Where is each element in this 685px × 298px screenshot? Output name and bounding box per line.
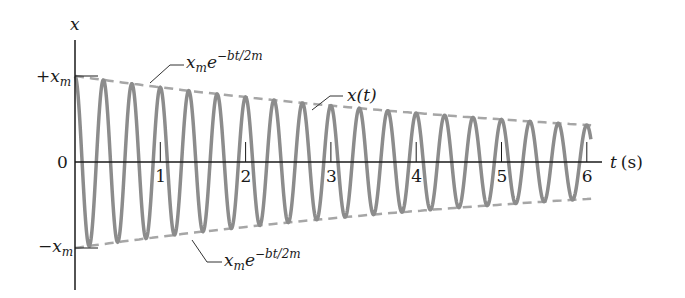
x-ticks: 123456 [155, 142, 592, 186]
lower-envelope-leader [192, 240, 222, 262]
damped-oscillation-chart: 123456 x t(s) +xm 0 −xm xme−bt/2m x(t) x… [0, 0, 685, 298]
lower-envelope-label: xme−bt/2m [224, 247, 301, 273]
x-tick-label: 5 [497, 166, 508, 186]
x-of-t-curve [75, 76, 591, 246]
minus-xm-label: −xm [38, 236, 73, 259]
upper-envelope-leader [150, 65, 184, 83]
x-axis-label: t(s) [610, 152, 643, 172]
zero-label: 0 [57, 152, 68, 172]
plus-xm-label: +xm [36, 66, 71, 89]
x-tick-label: 4 [411, 166, 422, 186]
y-axis-label: x [70, 14, 80, 34]
upper-envelope-label: xme−bt/2m [186, 49, 263, 75]
curve-leader [312, 96, 343, 110]
oscillation-curve [75, 76, 591, 246]
x-tick-label: 6 [582, 166, 593, 186]
lower-envelope [75, 199, 591, 248]
x-tick-label: 3 [326, 166, 337, 186]
x-tick-label: 1 [155, 166, 166, 186]
x-tick-label: 2 [241, 166, 252, 186]
curve-label: x(t) [347, 85, 377, 105]
